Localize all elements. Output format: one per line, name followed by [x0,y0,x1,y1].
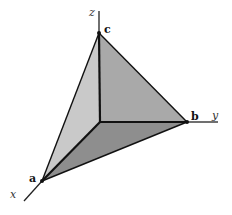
vertex-a-marker [40,179,44,183]
z-axis-label: z [88,6,95,19]
y-axis-label: y [211,109,219,122]
vertex-b-label: b [191,110,199,123]
vertex-c-label: c [104,23,111,36]
vertex-b-marker [185,120,189,124]
vertex-a-label: a [29,172,36,185]
vertex-c-marker [97,31,101,35]
tetrahedron-diagram: z y x c b a [0,0,232,215]
x-axis-label: x [10,188,17,201]
